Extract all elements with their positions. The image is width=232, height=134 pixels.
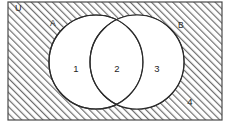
set-b-label: B bbox=[178, 20, 184, 30]
region-label-a-only: 1 bbox=[73, 63, 78, 74]
region-label-intersection: 2 bbox=[114, 63, 119, 74]
region-label-b-only: 3 bbox=[154, 63, 159, 74]
region-label-outside: 4 bbox=[187, 96, 192, 107]
venn-diagram-canvas: U A B 1 2 3 4 bbox=[0, 0, 232, 134]
venn-diagram-figure: U A B 1 2 3 4 bbox=[0, 0, 232, 134]
set-a-label: A bbox=[50, 18, 56, 28]
universe-label: U bbox=[15, 3, 22, 13]
